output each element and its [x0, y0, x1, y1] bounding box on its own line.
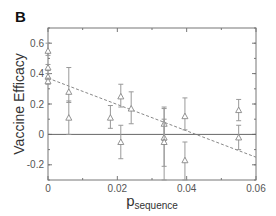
scatter-chart: -0.200.20.40.6 00.020.040.06 Vaccine Eff…: [0, 0, 276, 216]
plot-frame: [48, 28, 256, 180]
data-point: [236, 99, 242, 120]
triangle-marker-icon: [236, 134, 242, 140]
data-point: [236, 125, 242, 149]
x-axis-title-subscript: sequence: [134, 200, 178, 211]
triangle-marker-icon: [45, 65, 51, 71]
x-tick-label: 0.04: [177, 183, 197, 194]
data-point: [182, 142, 188, 180]
triangle-marker-icon: [182, 113, 188, 119]
triangle-marker-icon: [66, 89, 72, 95]
data-points: [45, 43, 242, 180]
data-point: [45, 43, 51, 55]
data-point: [66, 101, 72, 134]
trend-line: [48, 78, 256, 157]
y-tick-label: -0.2: [27, 159, 45, 170]
y-tick-label: 0.6: [30, 38, 44, 49]
triangle-marker-icon: [45, 48, 51, 54]
triangle-marker-icon: [236, 107, 242, 113]
y-tick-label: 0: [38, 129, 44, 140]
y-tick-label: 0.2: [30, 99, 44, 110]
triangle-marker-icon: [182, 157, 188, 163]
x-axis-title: psequence: [126, 192, 178, 211]
x-tick-label: 0: [45, 183, 51, 194]
triangle-marker-icon: [128, 106, 134, 112]
x-axis-title-main: p: [126, 192, 134, 209]
triangle-marker-icon: [118, 139, 124, 145]
data-point: [107, 106, 113, 129]
y-axis-title: Vaccine Efficacy: [11, 53, 27, 154]
x-tick-label: 0.06: [246, 183, 266, 194]
y-tick-label: 0.4: [30, 68, 44, 79]
y-axis: -0.200.20.40.6: [27, 28, 256, 180]
data-point: [128, 92, 134, 124]
x-axis: 00.020.040.06: [45, 28, 266, 194]
data-point: [182, 98, 188, 130]
data-point: [45, 64, 51, 70]
data-point: [66, 68, 72, 103]
triangle-marker-icon: [118, 93, 124, 99]
data-point: [118, 84, 124, 107]
triangle-marker-icon: [107, 115, 113, 121]
data-point: [118, 125, 124, 158]
x-tick-label: 0.02: [108, 183, 128, 194]
triangle-marker-icon: [66, 115, 72, 121]
